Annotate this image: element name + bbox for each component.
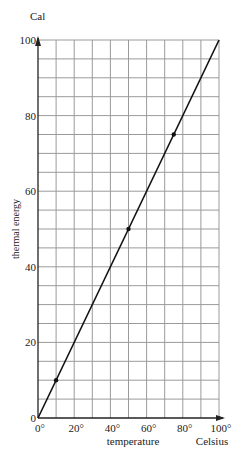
x-unit-label: Celsius — [196, 435, 228, 447]
chart: 0°20°40°60°80°100°020406080100 Cal therm… — [0, 0, 239, 470]
y-tick-label: 100 — [20, 34, 37, 46]
y-unit-label: Cal — [30, 10, 45, 22]
x-tick-label: 80° — [177, 422, 192, 434]
x-tick-label: 0° — [35, 422, 45, 434]
x-axis-arrow-icon — [216, 415, 225, 421]
y-tick-label: 40 — [25, 261, 37, 273]
y-axis-label: thermal energy — [10, 199, 21, 259]
data-point — [54, 378, 58, 382]
y-tick-label: 60 — [25, 185, 37, 197]
x-tick-label: 100° — [211, 422, 232, 434]
y-tick-label: 20 — [25, 336, 37, 348]
x-tick-label: 20° — [68, 422, 83, 434]
data-point — [172, 132, 176, 136]
x-axis-label: temperature — [107, 435, 160, 447]
x-tick-label: 60° — [141, 422, 156, 434]
y-tick-label: 80 — [25, 110, 37, 122]
data-point — [126, 227, 130, 231]
x-tick-label: 40° — [105, 422, 120, 434]
y-tick-label: 0 — [31, 412, 37, 424]
